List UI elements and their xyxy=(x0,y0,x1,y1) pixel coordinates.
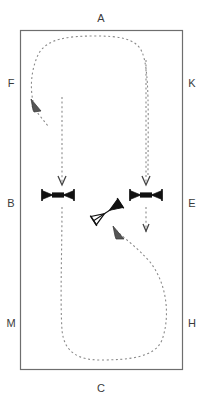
bowtie-valve-symbol-left[interactable] xyxy=(42,189,74,201)
enclosure-rectangle xyxy=(21,31,183,370)
bowtie-valve-symbol-right[interactable] xyxy=(130,189,162,201)
boundary-label-e: E xyxy=(188,197,195,209)
arrowheads-group xyxy=(58,176,150,231)
diagram-root: A F K B E M H C xyxy=(0,0,203,399)
diagram-canvas: A F K B E M H C xyxy=(0,0,203,399)
boundary-label-c: C xyxy=(97,382,105,394)
arrowhead-up-left-middle xyxy=(113,226,124,239)
boundary-label-k: K xyxy=(188,77,196,89)
boundary-label-f: F xyxy=(8,77,15,89)
boundary-label-a: A xyxy=(97,12,105,24)
boundary-label-h: H xyxy=(188,317,196,329)
arrowhead-down-middle-stub xyxy=(143,224,149,231)
boundary-label-m: M xyxy=(6,317,15,329)
arrowheads-filled-group xyxy=(31,99,124,239)
flow-path-upper-loop xyxy=(31,36,148,175)
boundary-label-b: B xyxy=(7,197,14,209)
arrowhead-up-left-near-f xyxy=(31,99,41,112)
bowtie-valve-symbol-middle[interactable] xyxy=(90,198,123,225)
